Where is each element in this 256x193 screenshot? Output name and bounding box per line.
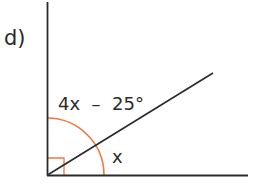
upper-angle-label: 4x – 25° — [58, 95, 144, 113]
lower-angle-label: x — [112, 148, 123, 166]
part-label: d) — [4, 28, 26, 49]
right-angle-arc — [47, 118, 104, 175]
